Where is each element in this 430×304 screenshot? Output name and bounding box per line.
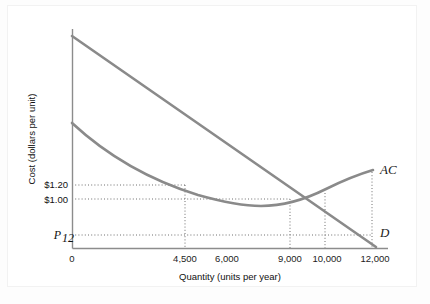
x-axis-title: Quantity (units per year) [179,271,281,282]
x-tick-labels: 0 4,500 6,000 9,000 10,000 12,000 [69,253,389,264]
average-cost-curve-ac[interactable] [72,123,373,206]
y-tick-label-p12-subscript: 12 [62,231,74,245]
curve-label-ac: AC [379,162,397,177]
guide-lines [72,172,372,248]
x-tick-label-4500: 4,500 [173,253,197,264]
series-curves [72,36,376,247]
demand-curve-d[interactable] [72,36,376,247]
x-tick-label-0: 0 [69,253,74,264]
figure-root: AC D $1.20 $1.00 P 12 0 4,500 6,000 9,00… [0,0,430,304]
y-tick-label-1-00: $1.00 [44,194,68,205]
x-tick-label-10000: 10,000 [312,253,341,264]
x-tick-label-6000: 6,000 [215,253,239,264]
axes [73,29,389,249]
y-tick-label-p12: P 12 [53,228,74,245]
curve-label-d: D [379,225,390,240]
chart-frame: AC D $1.20 $1.00 P 12 0 4,500 6,000 9,00… [8,6,416,286]
y-tick-label-p12-base: P [53,228,62,242]
cost-quantity-chart: AC D $1.20 $1.00 P 12 0 4,500 6,000 9,00… [8,6,416,286]
y-axis-title: Cost (dollars per unit) [26,94,37,185]
x-tick-label-9000: 9,000 [278,253,302,264]
x-tick-label-12000: 12,000 [360,253,389,264]
y-tick-label-1-20: $1.20 [44,179,68,190]
